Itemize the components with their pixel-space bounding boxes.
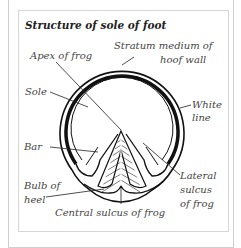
label-bulb-of-heel: Bulb of: [24, 180, 60, 192]
label-stratum-medium: Stratum medium of: [114, 40, 213, 52]
label-lateral-sulcus-2: sulcus: [180, 184, 212, 196]
label-lateral-sulcus-3: of frog: [180, 198, 214, 210]
label-apex-of-frog: Apex of frog: [30, 50, 92, 62]
label-white-line: White: [192, 99, 222, 111]
label-sole: Sole: [25, 86, 47, 98]
label-lateral-sulcus: Lateral: [180, 170, 216, 182]
label-white-line-2: line: [192, 112, 211, 124]
label-central-sulcus: Central sulcus of frog: [55, 207, 165, 219]
label-stratum-medium-2: hoof wall: [160, 54, 206, 66]
label-bulb-of-heel-2: heel: [24, 194, 45, 206]
label-bar: Bar: [24, 141, 42, 153]
